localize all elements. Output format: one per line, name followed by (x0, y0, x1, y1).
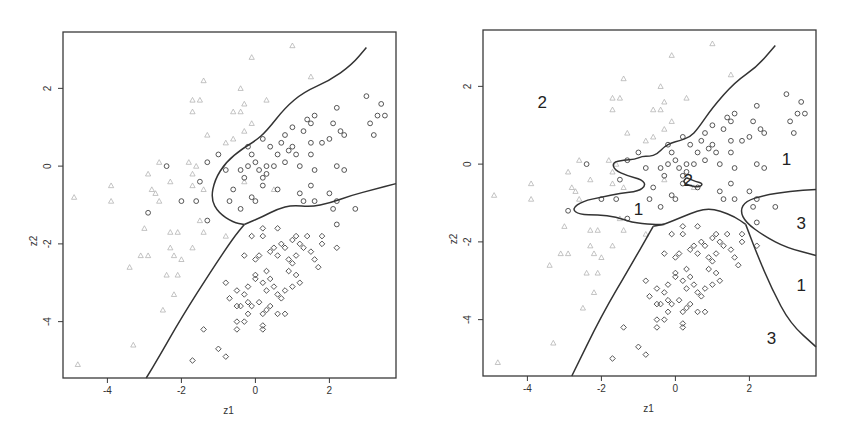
class3-diamond-point (610, 356, 616, 362)
class1-circle-point (205, 218, 210, 223)
class2-triangle-point (194, 164, 199, 169)
x-tick-label: -4 (523, 383, 532, 394)
class3-diamond-point (256, 253, 262, 259)
class3-diamond-point (695, 290, 701, 296)
class3-diamond-point (724, 231, 730, 237)
class1-circle-point (260, 175, 265, 180)
class3-diamond-point (721, 243, 727, 249)
class1-circle-point (784, 92, 789, 97)
decision-boundary-left-wedge (572, 226, 653, 376)
class1-circle-point (762, 166, 767, 171)
class1-circle-point (658, 166, 663, 171)
class2-triangle-point (591, 290, 596, 295)
class1-circle-point (194, 199, 199, 204)
class2-triangle-point (190, 109, 195, 114)
plot-frame (63, 32, 396, 378)
class3-diamond-point (710, 235, 716, 241)
y-tick-label: -4 (462, 315, 473, 324)
class1-circle-point (353, 206, 358, 211)
class3-diamond-point (728, 247, 734, 253)
class3-diamond-point (293, 253, 299, 259)
class3-diamond-point (702, 309, 708, 315)
class1-circle-point (673, 158, 678, 163)
class1-circle-point (238, 168, 243, 173)
class2-triangle-point (197, 218, 202, 223)
class1-circle-point (227, 199, 232, 204)
class3-diamond-point (271, 245, 277, 251)
class3-diamond-point (710, 259, 716, 265)
class3-diamond-point (260, 323, 266, 329)
class3-diamond-point (739, 239, 745, 245)
class1-circle-point (272, 164, 277, 169)
class1-circle-point (803, 111, 808, 116)
class2-triangle-point (168, 230, 173, 235)
class3-diamond-point (680, 325, 686, 331)
class3-diamond-point (713, 231, 719, 237)
class2-triangle-point (529, 197, 534, 202)
class1-circle-point (375, 113, 380, 118)
class2-triangle-point (249, 55, 254, 60)
class1-circle-point (320, 140, 325, 145)
class1-circle-point (309, 140, 314, 145)
class3-diamond-point (702, 286, 708, 292)
class2-triangle-point (168, 245, 173, 250)
class1-circle-point (703, 131, 708, 136)
class3-diamond-point (662, 290, 668, 296)
class1-circle-point (647, 197, 652, 202)
class2-triangle-point (606, 158, 611, 163)
class2-triangle-point (591, 251, 596, 256)
class1-circle-point (669, 150, 674, 155)
class2-triangle-point (577, 158, 582, 163)
class3-diamond-point (293, 272, 299, 278)
class2-triangle-point (658, 107, 663, 112)
class2-triangle-point (201, 78, 206, 83)
class1-circle-point (275, 187, 280, 192)
plot-frame (483, 30, 816, 376)
class2-triangle-point (171, 253, 176, 258)
class3-diamond-point (680, 278, 686, 284)
class2-triangle-point (249, 121, 254, 126)
class3-diamond-point (673, 270, 679, 276)
class1-circle-point (279, 140, 284, 145)
class1-circle-point (788, 119, 793, 124)
class1-circle-point (286, 148, 291, 153)
class2-triangle-point (157, 199, 162, 204)
class1-circle-point (312, 199, 317, 204)
class1-circle-point (751, 119, 756, 124)
class1-circle-point (312, 113, 317, 118)
class3-diamond-point (227, 296, 233, 302)
class2-triangle-point (610, 169, 615, 174)
class1-circle-point (729, 150, 734, 155)
class1-circle-point (729, 119, 734, 124)
class1-circle-point (309, 152, 314, 157)
class1-circle-point (146, 210, 151, 215)
class3-diamond-point (713, 270, 719, 276)
class2-triangle-point (175, 230, 180, 235)
class3-diamond-point (706, 255, 712, 261)
class3-diamond-point (665, 297, 671, 303)
class3-diamond-point (710, 282, 716, 288)
class2-triangle-point (495, 360, 500, 365)
figure: -4-202-4-202z1z2 2112313-4-202-4-202z1z2 (0, 0, 849, 437)
decision-boundary-class1-vs-class3 (244, 184, 396, 225)
class2-triangle-point (231, 136, 236, 141)
class1-circle-point (706, 146, 711, 151)
class3-diamond-point (275, 226, 281, 232)
class1-circle-point (666, 162, 671, 167)
class2-triangle-point (595, 228, 600, 233)
class2-triangle-point (566, 251, 571, 256)
class1-circle-point (231, 187, 236, 192)
class3-diamond-point (190, 358, 196, 364)
class3-diamond-point (267, 249, 273, 255)
class1-circle-point (714, 150, 719, 155)
class3-diamond-point (673, 255, 679, 261)
class1-circle-point (636, 150, 641, 155)
class2-triangle-point (131, 342, 136, 347)
y-tick-label: -2 (462, 237, 473, 246)
y-tick-label: 2 (462, 83, 473, 89)
class3-diamond-point (275, 292, 281, 298)
class2-triangle-point (138, 253, 143, 258)
class3-diamond-point (699, 294, 705, 300)
class1-circle-point (729, 181, 734, 186)
class3-diamond-point (662, 251, 668, 257)
